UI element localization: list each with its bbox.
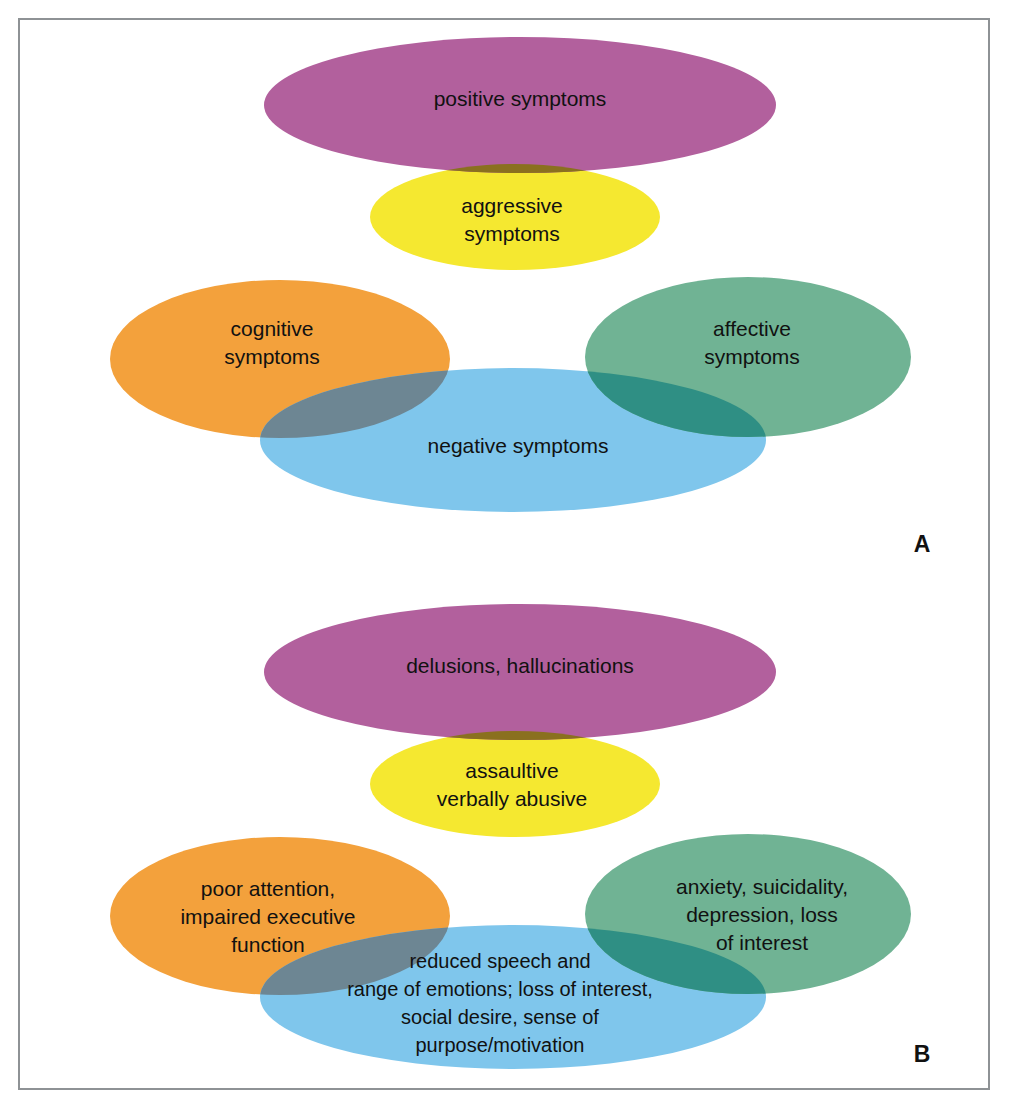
label-reduced-speech-line4: purpose/motivation xyxy=(416,1034,585,1056)
label-poor-attention-line3: function xyxy=(231,933,305,956)
ellipse-aggressive-symptoms xyxy=(370,164,660,270)
cluster-attention-reduced-anxiety: poor attention, impaired executive funct… xyxy=(110,834,911,1069)
label-anxiety-line1: anxiety, suicidality, xyxy=(676,875,848,898)
cluster-cognitive-negative-affective: cognitive symptoms negative symptoms aff… xyxy=(110,277,911,512)
label-poor-attention-line2: impaired executive xyxy=(180,905,355,928)
label-delusions-hallucinations: delusions, hallucinations xyxy=(406,654,634,677)
label-cognitive-symptoms-line1: cognitive xyxy=(231,317,314,340)
cluster-positive-aggressive: positive symptoms aggressive symptoms xyxy=(264,37,776,270)
label-affective-symptoms-line2: symptoms xyxy=(704,345,800,368)
label-reduced-speech-line2: range of emotions; loss of interest, xyxy=(347,978,653,1000)
label-assaultive-line2: verbally abusive xyxy=(437,787,588,810)
label-reduced-speech-line1: reduced speech and xyxy=(409,950,590,972)
label-anxiety-line2: depression, loss xyxy=(686,903,838,926)
venn-diagram-canvas: positive symptoms aggressive symptoms co… xyxy=(0,0,1012,1110)
label-aggressive-symptoms-line1: aggressive xyxy=(461,194,563,217)
label-poor-attention-line1: poor attention, xyxy=(201,877,335,900)
label-cognitive-symptoms-line2: symptoms xyxy=(224,345,320,368)
panel-a: positive symptoms aggressive symptoms co… xyxy=(110,37,930,557)
panel-letter-a: A xyxy=(914,531,931,557)
label-affective-symptoms-line1: affective xyxy=(713,317,791,340)
figure-root: positive symptoms aggressive symptoms co… xyxy=(0,0,1012,1110)
label-aggressive-symptoms-line2: symptoms xyxy=(464,222,560,245)
label-positive-symptoms: positive symptoms xyxy=(434,87,607,110)
cluster-delusions-assaultive: delusions, hallucinations assaultive ver… xyxy=(264,604,776,837)
label-anxiety-line3: of interest xyxy=(716,931,808,954)
label-negative-symptoms: negative symptoms xyxy=(428,434,609,457)
label-assaultive-line1: assaultive xyxy=(465,759,558,782)
label-reduced-speech-line3: social desire, sense of xyxy=(401,1006,599,1028)
ellipse-assaultive xyxy=(370,731,660,837)
panel-letter-b: B xyxy=(914,1041,931,1067)
panel-b: delusions, hallucinations assaultive ver… xyxy=(110,604,930,1069)
